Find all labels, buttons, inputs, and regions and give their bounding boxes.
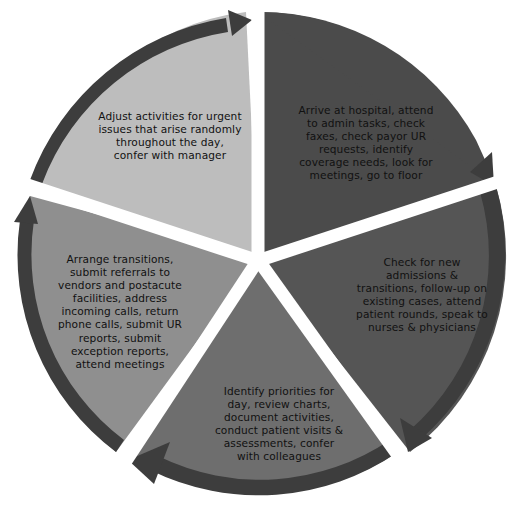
label-check-admissions: Check for new admissions & transitions, … bbox=[336, 256, 508, 335]
label-identify-priorities: Identify priorities for day, review char… bbox=[188, 385, 370, 464]
label-adjust-activities: Adjust activities for urgent issues that… bbox=[90, 110, 250, 162]
label-arrange-transitions: Arrange transitions, submit referrals to… bbox=[34, 253, 206, 371]
label-arrive: Arrive at hospital, attend to admin task… bbox=[286, 104, 446, 183]
